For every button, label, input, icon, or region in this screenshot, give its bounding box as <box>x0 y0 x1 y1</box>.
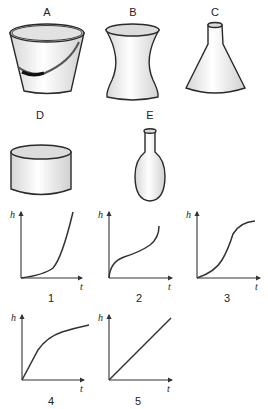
y-axis-label: h <box>98 209 103 220</box>
x-axis-label: t <box>168 281 171 292</box>
curve-1 <box>21 212 73 278</box>
container-label-c: C <box>211 6 219 18</box>
y-axis-label: h <box>186 209 191 220</box>
container-label-d: D <box>36 109 44 121</box>
x-axis-label: t <box>80 281 83 292</box>
curve-2 <box>109 226 159 278</box>
x-axis-label: t <box>255 281 258 292</box>
diagram-canvas: A B C D E h t 1 h <box>0 0 268 409</box>
container-label-b: B <box>129 6 136 18</box>
curve-3 <box>197 221 255 278</box>
graph-2: h t 2 <box>98 209 172 304</box>
x-axis-label: t <box>80 383 83 394</box>
graph-label-5: 5 <box>135 395 141 407</box>
graph-3: h t 3 <box>186 209 260 304</box>
container-label-a: A <box>43 6 51 18</box>
y-axis-label: h <box>11 312 16 323</box>
graph-label-1: 1 <box>48 292 54 304</box>
y-axis-label: h <box>98 312 103 323</box>
graph-label-4: 4 <box>48 395 54 407</box>
hourglass-vase-icon <box>106 24 159 100</box>
graph-4: h t 4 <box>11 312 89 407</box>
x-axis-label: t <box>167 383 170 394</box>
round-flask-icon <box>135 129 165 201</box>
curve-5 <box>109 318 171 380</box>
conical-flask-icon <box>186 23 245 94</box>
y-axis-label: h <box>10 209 15 220</box>
graph-5: h t 5 <box>98 312 172 407</box>
cylinder-icon <box>11 145 71 195</box>
graph-label-2: 2 <box>136 292 142 304</box>
graph-label-3: 3 <box>224 292 230 304</box>
container-label-e: E <box>146 109 153 121</box>
graph-1: h t 1 <box>10 209 83 304</box>
curve-4 <box>22 325 89 380</box>
bucket-icon <box>10 24 84 94</box>
